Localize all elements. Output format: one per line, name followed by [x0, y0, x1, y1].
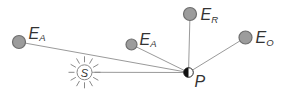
node-eo-right-icon	[239, 31, 252, 44]
node-ea-left-label: EA	[29, 25, 46, 44]
edge-eo-right-to-p	[189, 38, 246, 73]
point-p-label: P	[195, 73, 206, 90]
node-ea-left-icon	[13, 36, 26, 49]
sun-label: S	[81, 67, 89, 79]
edge-er-top-to-p	[189, 14, 191, 73]
light-paths-diagram: S EA EA ER EO P	[0, 0, 282, 94]
sun-source: S	[69, 56, 101, 88]
node-er-top-icon	[184, 8, 197, 21]
node-eo-right-label: EO	[256, 29, 275, 48]
point-p: P	[184, 68, 206, 90]
edge-ea-middle-to-p	[132, 45, 189, 73]
node-ea-middle-label: EA	[140, 31, 157, 50]
diagram-canvas: S EA EA ER EO P	[0, 0, 282, 94]
node-ea-middle-icon	[126, 39, 137, 50]
edge-ea-left-to-p	[19, 42, 189, 73]
node-er-top-label: ER	[201, 6, 219, 25]
